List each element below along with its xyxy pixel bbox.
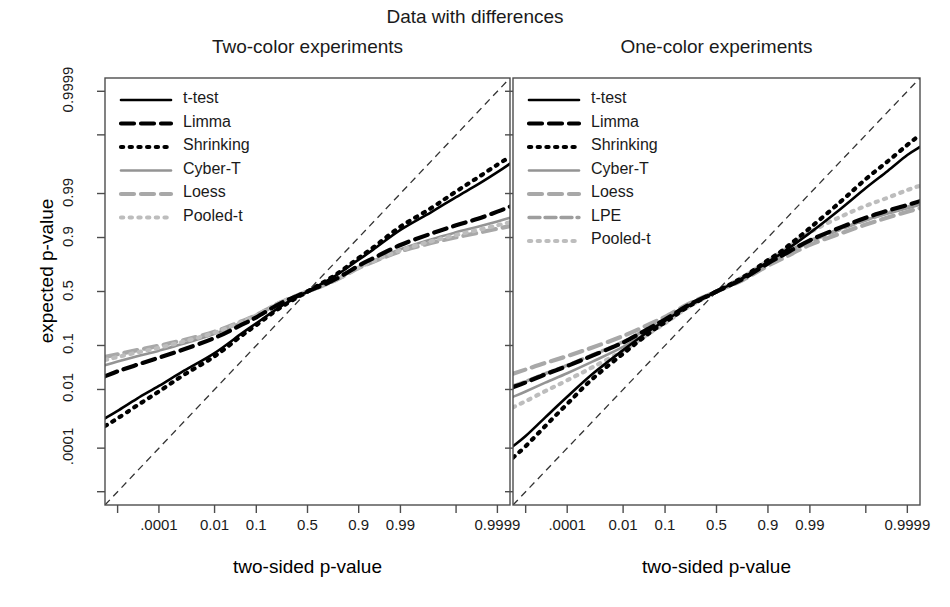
legend-label-loess: Loess [183, 183, 226, 201]
legend-label-lpe: LPE [591, 207, 621, 225]
series-line-t-test [513, 147, 920, 446]
x-axis-tick-label: 0.9999 [867, 516, 947, 533]
legend-label-cyber-t: Cyber-T [183, 160, 241, 178]
series-line-cyber-t [513, 205, 920, 397]
legend-label-t-test: t-test [183, 89, 219, 107]
series-line-limma [513, 201, 920, 387]
panel-two-color-curves [105, 78, 510, 505]
legend-label-shrinking: Shrinking [183, 136, 250, 154]
series-line-lpe [513, 203, 920, 386]
series-line-shrinking [105, 157, 510, 426]
legend-label-cyber-t: Cyber-T [591, 160, 649, 178]
y-axis-tick-label: 0.99 [59, 152, 76, 232]
series-line-shrinking [513, 135, 920, 458]
x-axis-tick-label: 0.99 [360, 516, 440, 533]
legend-label-pooled-t: Pooled-t [591, 230, 651, 248]
legend-label-pooled-t: Pooled-t [183, 207, 243, 225]
x-axis-tick-label: 0.99 [770, 516, 850, 533]
legend-label-loess: Loess [591, 183, 634, 201]
legend-label-t-test: t-test [591, 89, 627, 107]
y-axis-tick-label: 0.9999 [59, 50, 76, 130]
legend-label-limma: Limma [591, 113, 639, 131]
figure-canvas: Data with differences Two-color experime… [0, 0, 950, 607]
legend-label-shrinking: Shrinking [591, 136, 658, 154]
legend-label-limma: Limma [183, 113, 231, 131]
panel-one-color-curves [513, 78, 920, 505]
x-axis-tick-label: 0.9999 [457, 516, 537, 533]
